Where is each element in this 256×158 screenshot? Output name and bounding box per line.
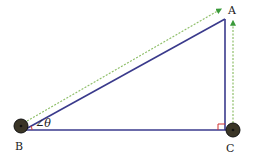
- dashed-arrow-b-to-a: [27, 9, 221, 121]
- node-b: [14, 119, 28, 133]
- right-angle-marker: [218, 124, 225, 130]
- label-b: B: [15, 140, 23, 153]
- label-a: A: [227, 4, 237, 17]
- label-angle-theta: ∠θ: [35, 117, 51, 130]
- side-ba-hypotenuse: [24, 19, 225, 130]
- node-c: [226, 123, 240, 137]
- right-triangle-diagram: A B C ∠θ: [0, 0, 256, 158]
- label-c: C: [226, 142, 234, 155]
